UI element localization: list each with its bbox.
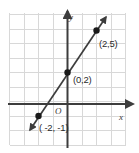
data-point-marker	[93, 27, 99, 33]
graph-canvas	[0, 0, 139, 153]
y-axis-label: y	[69, 13, 73, 22]
point-label-neg2-neg1: ( -2, -1)	[39, 123, 68, 133]
coordinate-plane-figure: y x O (2,5) (0,2) ( -2, -1)	[0, 0, 139, 153]
data-point-marker	[35, 113, 41, 119]
origin-label: O	[55, 107, 62, 116]
point-label-0-2: (0,2)	[73, 75, 92, 85]
data-point-marker	[64, 69, 70, 75]
point-label-2-5: (2,5)	[99, 39, 118, 49]
x-axis-label: x	[119, 113, 123, 122]
